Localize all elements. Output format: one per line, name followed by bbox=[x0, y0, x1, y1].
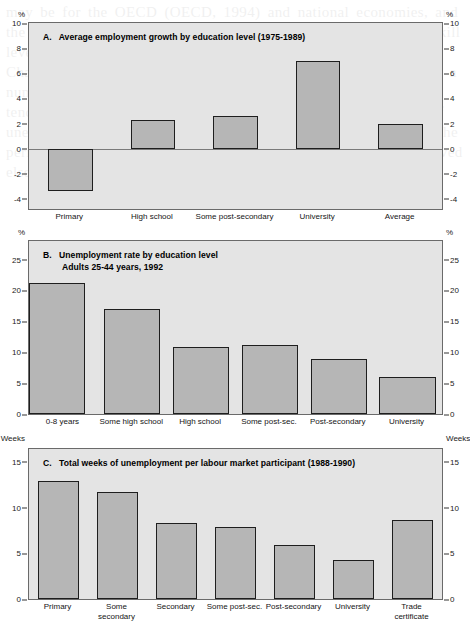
panel-c-ytick-l-15: 15 bbox=[12, 457, 29, 466]
panel-a-ytick-r-6: 6 bbox=[442, 69, 454, 78]
x-axis-label: Primary bbox=[28, 602, 87, 612]
tick-mark-icon bbox=[22, 149, 27, 150]
tick-mark-icon bbox=[22, 599, 27, 600]
panel-c-unit-right: Weeks bbox=[443, 434, 470, 443]
tick-mark-icon bbox=[444, 290, 449, 291]
panel-b-title-line1: B. Unemployment rate by education level bbox=[43, 250, 218, 260]
tick-mark-icon bbox=[444, 149, 449, 150]
tick-mark-icon bbox=[444, 352, 449, 353]
panel-c-ytick-r-10: 10 bbox=[442, 503, 459, 512]
x-axis-label: University bbox=[372, 417, 441, 427]
tick-mark-icon bbox=[22, 383, 27, 384]
panel-b-ytick-r-10: 10 bbox=[442, 348, 459, 357]
panel-b-ytick-r-0: 0 bbox=[442, 410, 454, 419]
bar bbox=[378, 124, 423, 149]
bar bbox=[97, 492, 138, 599]
x-axis-label: 0-8 years bbox=[28, 417, 97, 427]
tick-mark-icon bbox=[22, 48, 27, 49]
bar bbox=[296, 61, 341, 149]
bar bbox=[156, 523, 197, 599]
panel-a-ytick-l-8: 8 bbox=[17, 44, 29, 53]
bar bbox=[131, 120, 176, 149]
x-axis-label: Some post-secondary bbox=[193, 212, 276, 222]
panel-a-ytick-r-0: 0 bbox=[442, 144, 454, 153]
bar bbox=[173, 347, 229, 414]
panel-c-ytick-r-15: 15 bbox=[442, 457, 459, 466]
panel-a-ytick-r-2: 2 bbox=[442, 119, 454, 128]
x-axis-label: Trade certificate bbox=[382, 602, 441, 621]
x-axis-label: Post-secondary bbox=[303, 417, 372, 427]
panel-a-ytick-l-0: 0 bbox=[17, 144, 29, 153]
panel-b-unit-left: % bbox=[18, 228, 28, 237]
panel-a-ytick-l--4: -4 bbox=[14, 194, 29, 203]
x-axis-label: Some post-sec. bbox=[205, 602, 264, 612]
x-axis-label: Primary bbox=[28, 212, 111, 222]
tick-mark-icon bbox=[444, 199, 449, 200]
x-axis-label: Average bbox=[358, 212, 441, 222]
panel-c-plot-background bbox=[29, 449, 442, 599]
panel-a-ytick-l--2: -2 bbox=[14, 169, 29, 178]
panel-c-ytick-l-10: 10 bbox=[12, 503, 29, 512]
bar bbox=[104, 309, 160, 414]
bar bbox=[48, 149, 93, 192]
tick-mark-icon bbox=[444, 98, 449, 99]
tick-mark-icon bbox=[22, 124, 27, 125]
panel-b-ytick-l-25: 25 bbox=[12, 255, 29, 264]
bar bbox=[213, 116, 258, 149]
panel-c: Weeks Weeks C. Total weeks of unemployme… bbox=[0, 434, 469, 630]
bar bbox=[215, 527, 256, 599]
bar bbox=[29, 283, 85, 414]
tick-mark-icon bbox=[22, 199, 27, 200]
tick-mark-icon bbox=[444, 124, 449, 125]
panel-c-ytick-r-0: 0 bbox=[442, 595, 454, 604]
tick-mark-icon bbox=[444, 260, 449, 261]
x-axis-label: Post-secondary bbox=[264, 602, 323, 612]
x-axis-label: Secondary bbox=[146, 602, 205, 612]
x-axis-label: Some secondary bbox=[87, 602, 146, 621]
panel-c-title: C. Total weeks of unemployment per labou… bbox=[43, 458, 355, 468]
panel-a-ytick-r-4: 4 bbox=[442, 94, 454, 103]
panel-b-title-line2: Adults 25-44 years, 1992 bbox=[62, 262, 163, 272]
tick-mark-icon bbox=[22, 174, 27, 175]
panel-b: % % B. Unemployment rate by education le… bbox=[0, 228, 469, 433]
bar bbox=[379, 377, 435, 414]
tick-mark-icon bbox=[22, 321, 27, 322]
tick-mark-icon bbox=[22, 462, 27, 463]
tick-mark-icon bbox=[22, 553, 27, 554]
panel-b-ytick-l-10: 10 bbox=[12, 348, 29, 357]
tick-mark-icon bbox=[444, 174, 449, 175]
bar bbox=[392, 520, 433, 599]
x-axis-label: Some high school bbox=[97, 417, 166, 427]
panel-b-ytick-l-15: 15 bbox=[12, 317, 29, 326]
bar bbox=[311, 359, 367, 414]
tick-mark-icon bbox=[22, 290, 27, 291]
panel-b-ytick-r-15: 15 bbox=[442, 317, 459, 326]
tick-mark-icon bbox=[444, 414, 449, 415]
panel-c-ytick-l-5: 5 bbox=[17, 549, 29, 558]
panel-a-ytick-r--4: -4 bbox=[442, 194, 457, 203]
panel-b-ytick-r-5: 5 bbox=[442, 379, 454, 388]
panel-b-ytick-l-5: 5 bbox=[17, 379, 29, 388]
tick-mark-icon bbox=[444, 321, 449, 322]
panel-a-ytick-r-10: 10 bbox=[442, 19, 459, 28]
tick-mark-icon bbox=[444, 462, 449, 463]
x-axis-label: High school bbox=[166, 417, 235, 427]
panel-b-ytick-r-20: 20 bbox=[442, 286, 459, 295]
panel-b-plot-area: B. Unemployment rate by education level … bbox=[28, 240, 443, 415]
tick-mark-icon bbox=[22, 73, 27, 74]
tick-mark-icon bbox=[22, 23, 27, 24]
tick-mark-icon bbox=[22, 414, 27, 415]
panel-a-ytick-l-4: 4 bbox=[17, 94, 29, 103]
panel-a: % % A. Average employment growth by educ… bbox=[0, 10, 469, 225]
panel-a-ytick-r--2: -2 bbox=[442, 169, 457, 178]
tick-mark-icon bbox=[22, 260, 27, 261]
x-axis-label: High school bbox=[111, 212, 194, 222]
panel-a-plot-background bbox=[29, 23, 442, 209]
panel-a-ytick-l-2: 2 bbox=[17, 119, 29, 128]
bar bbox=[274, 545, 315, 599]
tick-mark-icon bbox=[22, 508, 27, 509]
x-axis-label: University bbox=[276, 212, 359, 222]
x-axis-label: University bbox=[323, 602, 382, 612]
panel-c-unit-left: Weeks bbox=[1, 434, 28, 443]
